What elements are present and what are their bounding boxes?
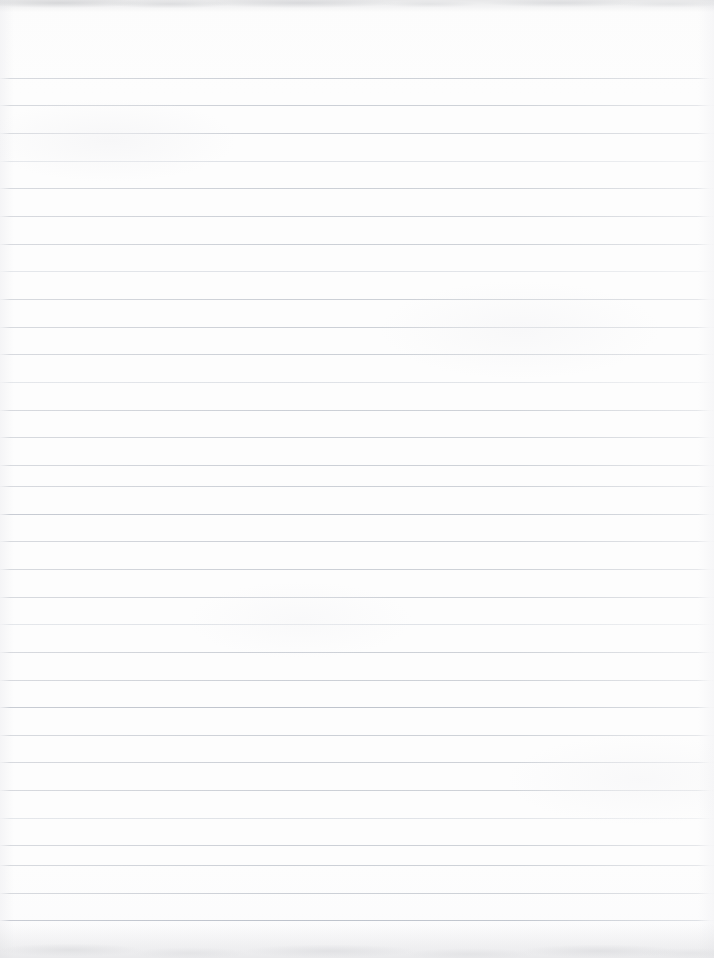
rule-line xyxy=(0,161,714,162)
rule-line xyxy=(0,105,714,106)
rule-line xyxy=(0,514,714,515)
rule-line xyxy=(0,437,714,438)
rule-line xyxy=(0,893,714,894)
ruled-lines-layer xyxy=(0,0,714,958)
rule-line xyxy=(0,299,714,300)
rule-line xyxy=(0,486,714,487)
rule-line xyxy=(0,735,714,736)
rule-line xyxy=(0,271,714,272)
rule-line xyxy=(0,465,714,466)
rule-line xyxy=(0,818,714,819)
rule-line xyxy=(0,569,714,570)
rule-line xyxy=(0,244,714,245)
rule-line xyxy=(0,845,714,846)
rule-line xyxy=(0,762,714,763)
rule-line xyxy=(0,188,714,189)
rule-line xyxy=(0,216,714,217)
rule-line xyxy=(0,354,714,355)
rule-line xyxy=(0,790,714,791)
rule-line xyxy=(0,652,714,653)
rule-line xyxy=(0,707,714,708)
rule-line xyxy=(0,382,714,383)
rule-line xyxy=(0,865,714,866)
rule-line xyxy=(0,78,714,79)
rule-line xyxy=(0,624,714,625)
rule-line xyxy=(0,133,714,134)
rule-line xyxy=(0,920,714,921)
scanned-page xyxy=(0,0,714,958)
rule-line xyxy=(0,327,714,328)
rule-line xyxy=(0,597,714,598)
rule-line xyxy=(0,410,714,411)
rule-line xyxy=(0,680,714,681)
rule-line xyxy=(0,541,714,542)
